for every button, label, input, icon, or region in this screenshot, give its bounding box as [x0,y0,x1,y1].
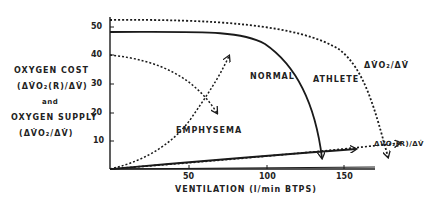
label-emphysema: EMPHYSEMA [176,126,242,135]
label-supply-formula: ΔV̇O₂/ΔV̇ [364,61,409,70]
y-label-oxygen-cost: OXYGEN COST [14,66,89,75]
x-tick-150: 150 [336,172,353,181]
y-tick-30: 30 [91,79,102,88]
y-tick-10: 10 [93,136,104,145]
x-tick-50: 50 [183,172,194,181]
y-label-oxygen-supply: OXYGEN SUPPLY [11,113,98,122]
emphysema-supply-curve [110,55,217,113]
y-tick-40: 40 [91,50,102,59]
y-label-cost-formula: (ΔV̇O₂(R)/ΔV̇) [17,82,88,91]
y-label-supply-formula: (ΔV̇O₂/ΔV̇) [19,129,73,138]
label-normal: NORMAL [250,72,295,81]
normal-supply-curve [110,32,322,158]
label-cost-formula: ΔV̇O₂(R)/ΔV̇ [374,140,424,148]
label-athlete: ATHLETE [313,75,359,84]
x-axis-label: VENTILATION (l/min BTPS) [175,185,317,194]
y-tick-50: 50 [91,22,102,31]
athlete-supply-curve [110,20,388,157]
emphysema-cost-curve [110,56,229,169]
x-tick-100: 100 [259,172,276,181]
y-label-and: and [42,98,58,106]
